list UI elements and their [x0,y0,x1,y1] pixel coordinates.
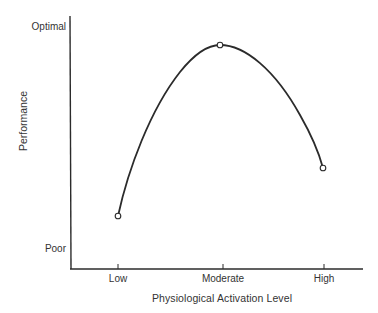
y-axis-line [70,16,71,269]
x-tick-label-high: High [314,274,335,284]
y-axis-title: Performance [18,91,29,151]
x-tick-label-low: Low [109,274,127,284]
x-tick-label-moderate: Moderate [202,274,244,284]
y-tick-label-poor: Poor [45,244,66,254]
data-point-high [320,165,326,171]
performance-curve [118,45,323,216]
data-point-low [115,213,121,219]
chart-plot [0,0,378,313]
x-axis-title: Physiological Activation Level [152,293,292,304]
y-tick-label-optimal: Optimal [32,22,66,32]
data-point-moderate [217,42,223,48]
